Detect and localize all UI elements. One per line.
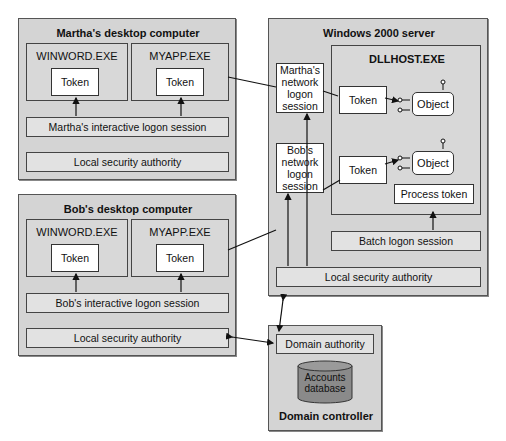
martha-network-session: Martha's network logon session	[276, 63, 324, 113]
object-1: Object	[412, 92, 454, 116]
server-token-2: Token	[339, 156, 387, 184]
bob-desktop-title: Bob's desktop computer	[19, 203, 237, 215]
token: Token	[156, 68, 204, 96]
dc-title: Domain controller	[269, 410, 383, 422]
process-name: WINWORD.EXE	[27, 50, 127, 62]
martha-interactive-session: Martha's interactive logon session	[26, 117, 229, 137]
domain-controller: Domain authority Accounts database Domai…	[268, 325, 382, 431]
dllhost-process: DLLHOST.EXE Token Object Token Object Pr…	[331, 45, 481, 215]
token: Token	[51, 68, 99, 96]
dllhost-title: DLLHOST.EXE	[332, 53, 482, 65]
bob-winword-process: WINWORD.EXE Token	[26, 219, 128, 277]
martha-myapp-process: MYAPP.EXE Token	[131, 43, 229, 101]
bob-desktop: Bob's desktop computer WINWORD.EXE Token…	[18, 194, 236, 356]
process-name: MYAPP.EXE	[132, 50, 228, 62]
process-token: Process token	[394, 184, 474, 204]
server-token-1: Token	[339, 86, 387, 114]
windows-server: Windows 2000 server Martha's network log…	[268, 18, 488, 296]
token: Token	[51, 244, 99, 272]
process-name: WINWORD.EXE	[27, 226, 127, 238]
bob-network-session: Bob's network logon session	[276, 143, 324, 193]
object-2: Object	[412, 151, 454, 175]
martha-winword-process: WINWORD.EXE Token	[26, 43, 128, 101]
martha-lsa: Local security authority	[26, 152, 229, 172]
bob-myapp-process: MYAPP.EXE Token	[131, 219, 229, 277]
database-label: Accounts database	[303, 372, 347, 394]
accounts-database: Accounts database	[297, 360, 353, 404]
server-title: Windows 2000 server	[269, 27, 489, 39]
domain-authority: Domain authority	[276, 334, 374, 354]
martha-desktop: Martha's desktop computer WINWORD.EXE To…	[18, 18, 236, 180]
batch-logon-session: Batch logon session	[331, 231, 481, 251]
bob-lsa: Local security authority	[26, 328, 229, 348]
process-name: MYAPP.EXE	[132, 226, 228, 238]
bob-interactive-session: Bob's interactive logon session	[26, 293, 229, 313]
server-lsa: Local security authority	[276, 267, 481, 287]
martha-desktop-title: Martha's desktop computer	[19, 27, 237, 39]
token: Token	[156, 244, 204, 272]
